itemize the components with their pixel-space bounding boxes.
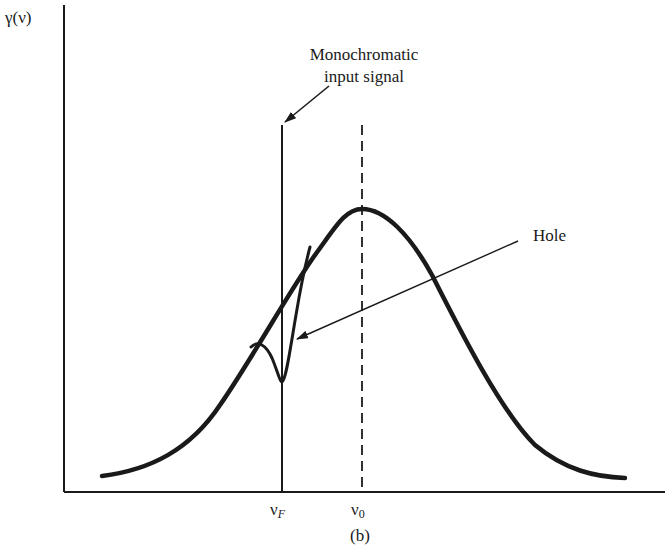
x-tick-nu0-subscript: 0 bbox=[359, 507, 365, 521]
monochromatic-label-line2: input signal bbox=[300, 66, 428, 88]
x-tick-nuF-symbol: ν bbox=[270, 500, 278, 519]
x-tick-nuF: νF bbox=[270, 500, 285, 522]
monochromatic-label-line1: Monochromatic bbox=[300, 44, 428, 66]
hole-curve bbox=[251, 247, 310, 382]
hole-arrow bbox=[297, 241, 518, 339]
x-tick-nuF-subscript: F bbox=[278, 507, 285, 521]
hole-annotation: Hole bbox=[533, 226, 566, 246]
x-tick-nu0: ν0 bbox=[351, 500, 365, 522]
gain-curve bbox=[102, 209, 625, 478]
monochromatic-annotation: Monochromatic input signal bbox=[300, 44, 428, 88]
x-tick-nu0-symbol: ν bbox=[351, 500, 359, 519]
y-axis-label: γ(ν) bbox=[5, 8, 32, 28]
monochromatic-arrow bbox=[285, 86, 329, 122]
figure-caption: (b) bbox=[350, 526, 370, 546]
